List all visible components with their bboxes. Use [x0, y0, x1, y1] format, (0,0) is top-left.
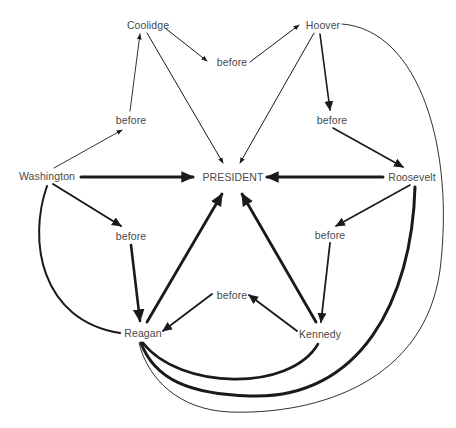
node-before-top: before: [217, 56, 247, 68]
node-before-bottom: before: [217, 289, 247, 301]
edge-before-lower-right-kennedy: [321, 243, 330, 322]
curve-kennedy-reagan: [143, 343, 318, 379]
curve-roosevelt-reagan: [141, 187, 415, 396]
node-kennedy: Kennedy: [299, 328, 341, 340]
edge-kennedy-before-bottom: [249, 295, 297, 331]
node-before-lower-right: before: [315, 229, 345, 241]
edge-coolidge-before-top: [165, 28, 207, 61]
node-before-lower-left: before: [116, 230, 146, 242]
node-president: PRESIDENT: [203, 171, 264, 183]
edge-kennedy-president: [242, 194, 316, 322]
node-hoover: Hoover: [306, 19, 340, 31]
edge-washington-before-left: [54, 130, 122, 168]
edge-coolidge-president: [147, 33, 223, 163]
edge-hoover-before-right: [320, 34, 330, 110]
node-reagan: Reagan: [124, 327, 161, 339]
edge-before-top-hoover: [250, 25, 299, 62]
edges: [39, 24, 443, 412]
node-before-left: before: [116, 114, 146, 126]
edge-before-bottom-reagan: [163, 294, 212, 331]
edge-before-lower-left-reagan: [131, 245, 140, 321]
edge-hoover-president: [240, 33, 314, 163]
node-roosevelt: Roosevelt: [388, 171, 436, 183]
edge-roosevelt-before-lower-right: [336, 185, 410, 226]
edge-washington-before-lower-left: [53, 184, 121, 226]
edge-before-left-coolidge: [130, 34, 140, 111]
curve-hoover-reagan: [139, 24, 443, 412]
node-coolidge: Coolidge: [127, 19, 169, 31]
node-washington: Washington: [19, 170, 75, 182]
edge-before-right-roosevelt: [333, 128, 403, 167]
edge-reagan-president: [147, 194, 222, 322]
node-before-right: before: [317, 114, 347, 126]
curve-washington-reagan: [39, 186, 120, 333]
